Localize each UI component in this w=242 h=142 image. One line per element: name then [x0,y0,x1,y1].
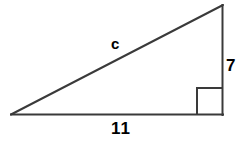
triangle-figure: c 7 11 [0,0,242,142]
vertical-leg-label: 7 [226,57,235,74]
hypotenuse-line [11,5,223,115]
right-angle-marker [197,88,223,114]
hypotenuse-label: c [111,36,119,51]
base-leg-label: 11 [111,120,131,137]
